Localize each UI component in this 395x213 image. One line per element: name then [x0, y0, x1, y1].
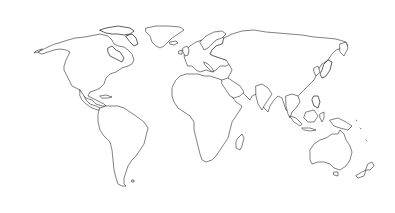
- region-se-asia: [286, 94, 300, 118]
- region-sumatra: [290, 116, 302, 126]
- world-map: [0, 0, 395, 213]
- region-australia: [310, 130, 352, 170]
- region-pacific-islands: [356, 120, 367, 141]
- region-iceland: [170, 41, 178, 45]
- region-borneo: [304, 110, 318, 122]
- world-map-svg: [0, 0, 395, 213]
- region-south-america: [98, 106, 148, 186]
- region-philippines: [312, 96, 320, 108]
- region-new-guinea: [330, 118, 352, 130]
- region-sulawesi: [320, 112, 324, 122]
- region-tasmania: [334, 172, 338, 176]
- region-new-zealand-north: [366, 162, 374, 170]
- region-baffin-island: [126, 34, 138, 46]
- region-arctic-archipelago: [100, 26, 134, 35]
- region-greenland: [146, 26, 184, 48]
- region-falklands: [132, 180, 134, 182]
- region-madagascar: [236, 134, 244, 150]
- region-kamchatka: [340, 42, 348, 56]
- region-new-zealand-south: [356, 170, 366, 178]
- region-caribbean: [100, 95, 112, 98]
- region-north-america: [38, 34, 134, 106]
- region-java: [302, 128, 316, 131]
- region-ireland: [179, 50, 182, 54]
